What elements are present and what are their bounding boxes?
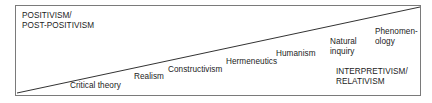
pole-label-interpretivism: INTERPRETIVISM/ RELATIVISM	[336, 67, 408, 87]
continuum-label-humanism: Humanism	[276, 49, 316, 59]
continuum-label-hermeneutics: Hermeneutics	[226, 57, 277, 67]
continuum-label-realism: Realism	[134, 72, 164, 82]
pole-label-positivism: POSITIVISM/ POST-POSITIVISM	[22, 11, 94, 31]
continuum-label-phenomenology: Phenomen- ology	[375, 27, 418, 46]
continuum-label-critical-theory: Critical theory	[70, 81, 121, 91]
continuum-label-natural-inquiry: Natural inquiry	[330, 37, 357, 56]
continuum-label-constructivism: Constructivism	[168, 65, 222, 75]
paradigm-continuum-figure: POSITIVISM/ POST-POSITIVISM INTERPRETIVI…	[0, 0, 432, 103]
